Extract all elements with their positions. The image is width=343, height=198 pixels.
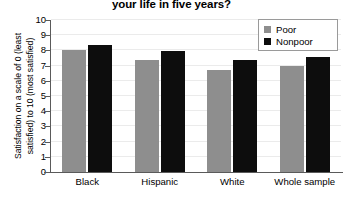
y-axis-tick-label: 7 [30,61,46,71]
y-axis-tick-label: 10 [30,15,46,25]
y-axis-tick-label: 2 [30,137,46,147]
bar-poor-white [207,70,231,172]
legend-swatch-icon [264,38,271,45]
bar-nonpoor-black [88,45,112,172]
y-axis-tick-label: 5 [30,91,46,101]
y-axis-tick-label: 3 [30,121,46,131]
y-axis-tick-label: 8 [30,45,46,55]
legend-item-nonpoor: Nonpoor [264,35,332,47]
chart-figure: your life in five years? Satisfaction on… [0,0,343,198]
x-axis-tick-label: Whole sample [255,176,343,188]
y-axis-tick-label: 6 [30,76,46,86]
legend-label: Poor [276,24,296,35]
bar-poor-hispanic [135,60,159,172]
y-axis-title: Satisfaction on a scale of 0 (least sati… [0,16,26,176]
y-axis-tick-label: 9 [30,30,46,40]
bar-nonpoor-hispanic [161,51,185,172]
bar-nonpoor-whole-sample [306,57,330,172]
legend: PoorNonpoor [258,19,338,51]
legend-item-poor: Poor [264,23,332,35]
bar-nonpoor-white [233,60,257,172]
legend-label: Nonpoor [276,36,313,47]
x-axis-line [44,172,343,173]
chart-title: your life in five years? [0,0,343,11]
legend-swatch-icon [264,26,271,33]
y-axis-tick-labels: 012345678910 [26,0,46,198]
bar-poor-black [62,50,86,172]
x-axis-tick-labels: BlackHispanicWhiteWhole sample [51,176,341,196]
bar-poor-whole-sample [280,66,304,172]
y-axis-tick-label: 1 [30,152,46,162]
y-axis-tick-label: 4 [30,106,46,116]
